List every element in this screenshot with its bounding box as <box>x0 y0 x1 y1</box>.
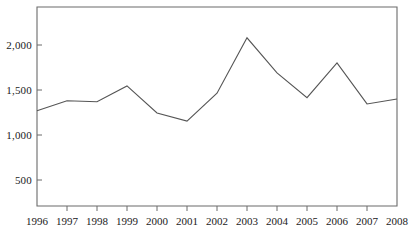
y-tick-label: 2,000 <box>6 39 32 51</box>
y-tick-label: 1,500 <box>6 84 32 96</box>
x-tick-label: 2002 <box>206 215 228 227</box>
x-tick-label: 1999 <box>116 215 138 227</box>
x-tick-label: 1996 <box>26 215 48 227</box>
x-axis-ticks <box>67 206 367 211</box>
plot-frame <box>37 7 397 206</box>
x-tick-label: 2005 <box>296 215 318 227</box>
y-axis-ticks <box>37 45 42 180</box>
x-tick-label: 2006 <box>326 215 348 227</box>
x-tick-label: 2008 <box>386 215 408 227</box>
x-tick-label: 2000 <box>146 215 168 227</box>
x-tick-label: 1998 <box>86 215 108 227</box>
chart-canvas <box>0 0 416 237</box>
x-tick-label: 2004 <box>266 215 288 227</box>
series-line <box>37 38 397 121</box>
x-tick-label: 2001 <box>176 215 198 227</box>
line-chart: 5001,0001,5002,000 199619971998199920002… <box>0 0 416 237</box>
data-series-group <box>37 38 397 121</box>
x-tick-label: 2003 <box>236 215 258 227</box>
plot-border <box>37 7 397 206</box>
y-tick-label: 1,000 <box>6 129 32 141</box>
x-tick-label: 1997 <box>56 215 78 227</box>
x-tick-label: 2007 <box>356 215 378 227</box>
y-tick-label: 500 <box>15 174 32 186</box>
